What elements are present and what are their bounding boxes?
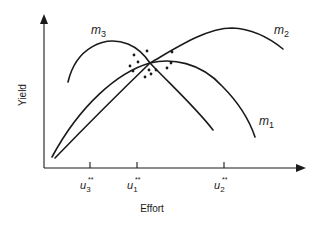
observation-point — [132, 70, 135, 73]
curve-label-m3: m3 — [91, 23, 106, 39]
observation-point — [137, 61, 140, 64]
curve-label-m2-sub: 2 — [284, 29, 289, 39]
tick-label-u2-sub: 2 — [220, 185, 225, 194]
x-axis-label: Effort — [140, 203, 164, 214]
observation-point — [166, 67, 169, 70]
effort-yield-diagram: Yield Effort u3 ** u1 ** u2 ** m3 m2 m1 — [0, 0, 324, 227]
y-axis-label: Yield — [17, 84, 28, 106]
observation-point — [155, 69, 158, 72]
curve-m3 — [68, 41, 213, 130]
curve-label-m3-sub: 3 — [101, 29, 106, 39]
curve-label-m2-base: m — [274, 23, 284, 37]
tick-label-u1-sup: ** — [135, 176, 141, 183]
curve-label-m1: m1 — [259, 114, 274, 130]
tick-label-u1: u1 ** — [127, 176, 141, 194]
observation-point — [129, 65, 132, 68]
x-axis-ticks — [90, 162, 224, 168]
curve-label-m1-sub: 1 — [269, 120, 274, 130]
observation-point — [144, 76, 147, 79]
tick-label-u2: u2 ** — [214, 176, 228, 194]
tick-label-u1-sub: 1 — [133, 185, 138, 194]
x-axis-arrowhead-icon — [296, 164, 306, 172]
observation-point — [150, 73, 153, 76]
observation-point — [171, 51, 174, 54]
curve-label-m2: m2 — [274, 23, 289, 39]
observation-point — [170, 62, 173, 65]
curve-label-m3-base: m — [91, 23, 101, 37]
observation-point — [133, 54, 136, 57]
observation-point — [146, 50, 149, 53]
curve-m2 — [52, 28, 283, 157]
tick-label-u2-sup: ** — [222, 176, 228, 183]
curve-label-m1-base: m — [259, 114, 269, 128]
tick-label-u3-sub: 3 — [86, 185, 91, 194]
tick-label-u3: u3 ** — [80, 176, 94, 194]
tick-label-u3-sup: ** — [88, 176, 94, 183]
observation-point — [148, 69, 151, 72]
y-axis-arrowhead-icon — [40, 14, 48, 24]
